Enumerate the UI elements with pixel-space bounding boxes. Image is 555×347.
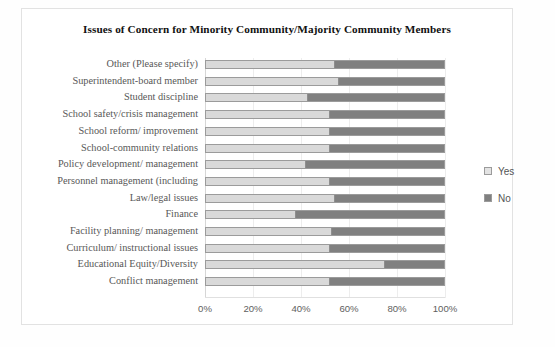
bar-segment-yes [206, 145, 330, 152]
bar-segment-yes [206, 261, 385, 268]
bar-segment-yes [206, 111, 330, 118]
category-label: Personnel management (including [0, 175, 198, 186]
bar-segment-yes [206, 161, 306, 168]
legend-item-yes[interactable]: Yes [484, 163, 542, 179]
category-label: Other (Please specify) [0, 58, 198, 69]
bar-segment-no [332, 228, 444, 235]
bar-segment-yes [206, 178, 330, 185]
x-tick-label: 0% [198, 303, 212, 314]
bar-segment-no [385, 261, 445, 268]
x-tick-label: 60% [339, 303, 358, 314]
bar-row: Personnel management (including [205, 175, 445, 192]
stacked-bar [205, 177, 445, 186]
category-label: School reform/ improvement [0, 125, 198, 136]
bar-segment-yes [206, 94, 308, 101]
category-label: Law/legal issues [0, 192, 198, 203]
bar-segment-no [335, 195, 444, 202]
bar-row: School-community relations [205, 142, 445, 159]
stacked-bar [205, 110, 445, 119]
bar-row: Educational Equity/Diversity [205, 258, 445, 275]
bar-row: Student discipline [205, 91, 445, 108]
legend-label: No [498, 193, 511, 204]
category-label: School safety/crisis management [0, 108, 198, 119]
chart-title: Issues of Concern for Minority Community… [21, 23, 513, 35]
bar-segment-no [335, 61, 444, 68]
bar-segment-yes [206, 211, 296, 218]
x-tick-label: 40% [291, 303, 310, 314]
stacked-bar [205, 144, 445, 153]
bar-segment-no [330, 111, 444, 118]
bar-segment-no [330, 245, 444, 252]
bar-segment-no [330, 145, 444, 152]
bar-segment-yes [206, 61, 335, 68]
bar-segment-no [339, 78, 444, 85]
x-axis-line [205, 297, 445, 298]
stacked-bar [205, 77, 445, 86]
stacked-bar [205, 194, 445, 203]
stacked-bar [205, 277, 445, 286]
stacked-bar [205, 93, 445, 102]
stacked-bar [205, 227, 445, 236]
bar-row: Law/legal issues [205, 192, 445, 209]
x-tick-label: 20% [243, 303, 262, 314]
stacked-bar [205, 160, 445, 169]
bar-segment-yes [206, 228, 332, 235]
bar-segment-yes [206, 78, 339, 85]
plot-area: Other (Please specify)Superintendent-boa… [205, 58, 445, 298]
category-label: Student discipline [0, 91, 198, 102]
x-tick-label: 80% [387, 303, 406, 314]
category-label: Finance [0, 208, 198, 219]
category-label: Policy development/ management [0, 158, 198, 169]
stacked-bar [205, 210, 445, 219]
bar-segment-yes [206, 195, 335, 202]
bar-segment-yes [206, 128, 330, 135]
bar-row: Superintendent-board member [205, 75, 445, 92]
legend-swatch-yes-icon [484, 167, 492, 175]
bar-row: School safety/crisis management [205, 108, 445, 125]
category-label: Curriculum/ instructional issues [0, 242, 198, 253]
x-axis-tick-labels: 0%20%40%60%80%100% [205, 303, 445, 317]
category-label: Educational Equity/Diversity [0, 258, 198, 269]
bar-segment-no [296, 211, 444, 218]
category-label: Superintendent-board member [0, 75, 198, 86]
legend-item-no[interactable]: No [484, 190, 542, 206]
bar-segment-no [306, 161, 444, 168]
stacked-bar [205, 244, 445, 253]
bar-row: Facility planning/ management [205, 225, 445, 242]
bar-row: Policy development/ management [205, 158, 445, 175]
category-label: Conflict management [0, 275, 198, 286]
bar-segment-no [330, 128, 444, 135]
category-label: School-community relations [0, 142, 198, 153]
bar-row: Conflict management [205, 275, 445, 292]
stacked-bar [205, 127, 445, 136]
chart-figure: Issues of Concern for Minority Community… [0, 0, 555, 347]
bar-segment-no [308, 94, 444, 101]
bar-segment-no [330, 178, 444, 185]
bar-segment-yes [206, 245, 330, 252]
bar-segment-no [330, 278, 444, 285]
legend-swatch-no-icon [484, 194, 492, 202]
x-tick-label: 100% [433, 303, 458, 314]
bar-segment-yes [206, 278, 330, 285]
bar-row: School reform/ improvement [205, 125, 445, 142]
stacked-bar [205, 260, 445, 269]
stacked-bar [205, 60, 445, 69]
category-label: Facility planning/ management [0, 225, 198, 236]
bar-row: Other (Please specify) [205, 58, 445, 75]
legend-label: Yes [498, 166, 514, 177]
gridline-100pct [445, 58, 446, 298]
chart-legend: YesNo [484, 163, 542, 217]
bar-row: Curriculum/ instructional issues [205, 242, 445, 259]
bar-row: Finance [205, 208, 445, 225]
